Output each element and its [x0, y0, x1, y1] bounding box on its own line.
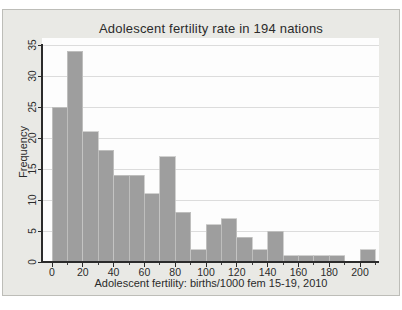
chart-title: Adolescent fertility rate in 194 nations: [42, 21, 380, 36]
y-axis-title: Frequency: [17, 92, 29, 212]
figure-page: 0510152025303502040608010012014016018020…: [0, 0, 402, 310]
histogram-plot: 0510152025303502040608010012014016018020…: [0, 0, 402, 310]
svg-text:0: 0: [27, 259, 38, 265]
svg-text:35: 35: [27, 39, 38, 51]
svg-text:5: 5: [27, 228, 38, 234]
x-axis-title: Adolescent fertility: births/1000 fem 15…: [42, 277, 380, 289]
svg-text:30: 30: [27, 70, 38, 82]
